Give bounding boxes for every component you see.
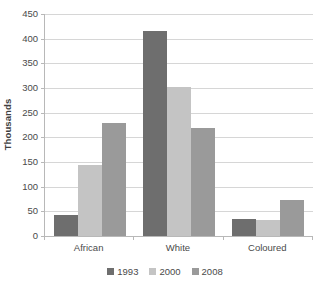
x-axis-tick-marks <box>44 236 312 241</box>
bar-chart: Thousands 050100150200250300350400450 Af… <box>0 0 330 290</box>
legend-label: 2008 <box>202 267 223 277</box>
x-axis-tick-mark <box>44 236 45 240</box>
bar-group-white <box>143 14 215 236</box>
legend-label: 2000 <box>159 267 180 277</box>
y-axis-tick-label: 250 <box>22 108 38 118</box>
x-axis-tick-mark <box>133 236 134 240</box>
x-axis-category-labels: AfricanWhiteColoured <box>44 243 312 259</box>
y-axis-tick-label: 200 <box>22 133 38 143</box>
bar-coloured-1993 <box>232 219 256 236</box>
bar-coloured-2008 <box>280 200 304 236</box>
legend-swatch-icon <box>192 268 199 275</box>
bar-african-2008 <box>102 123 126 236</box>
y-axis-tick-label: 400 <box>22 34 38 44</box>
legend-item-2008[interactable]: 2008 <box>192 267 223 277</box>
y-axis-title-label: Thousands <box>3 98 14 150</box>
bar-white-2008 <box>191 128 215 236</box>
y-axis-tick-label: 450 <box>22 9 38 19</box>
bar-white-1993 <box>143 31 167 236</box>
y-axis-tick-label: 50 <box>27 207 38 217</box>
y-axis-tick-label: 300 <box>22 83 38 93</box>
y-axis-tick-label: 350 <box>22 59 38 69</box>
bar-african-2000 <box>78 165 102 236</box>
x-axis-tick-mark <box>223 236 224 240</box>
x-axis-category-label-coloured: Coloured <box>248 243 287 253</box>
bars-layer <box>45 14 313 236</box>
legend-item-2000[interactable]: 2000 <box>149 267 180 277</box>
bar-white-2000 <box>167 87 191 236</box>
x-axis-tick-mark <box>312 236 313 240</box>
y-axis-tick-label: 150 <box>22 157 38 167</box>
y-axis-tick-labels: 050100150200250300350400450 <box>14 14 40 236</box>
plot-area <box>44 14 313 237</box>
bar-african-1993 <box>54 215 78 236</box>
x-axis-category-label-african: African <box>74 243 104 253</box>
legend-item-1993[interactable]: 1993 <box>107 267 138 277</box>
legend-swatch-icon <box>107 268 114 275</box>
x-axis-category-label-white: White <box>166 243 190 253</box>
bar-coloured-2000 <box>256 220 280 236</box>
bar-group-coloured <box>232 14 304 236</box>
legend-swatch-icon <box>149 268 156 275</box>
bar-group-african <box>54 14 126 236</box>
legend: 199320002008 <box>0 267 330 277</box>
legend-label: 1993 <box>117 267 138 277</box>
y-axis-tick-label: 0 <box>33 231 38 241</box>
y-axis-tick-label: 100 <box>22 182 38 192</box>
